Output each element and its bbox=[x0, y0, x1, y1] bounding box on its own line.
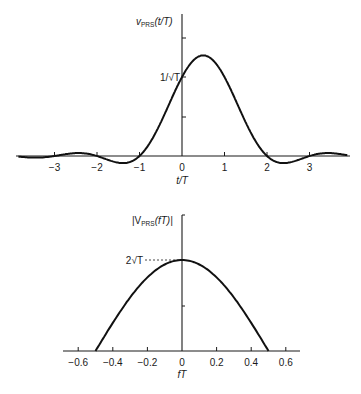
chart-figure: −3−2−10123 1/√T vPRS(t/T) t/T −0.6−0.4−0… bbox=[0, 0, 361, 394]
top-x-tick-label: −1 bbox=[134, 162, 146, 173]
top-x-tick-label: −2 bbox=[91, 162, 103, 173]
bottom-x-axis-label: fT bbox=[178, 369, 188, 380]
frequency-domain-chart: −0.6−0.4−0.200.20.40.6 2√T |VPRS(fT)| fT bbox=[63, 215, 300, 380]
top-x-tick-label: 3 bbox=[307, 162, 313, 173]
prs-pulse-curve bbox=[18, 55, 347, 163]
top-x-axis-label: t/T bbox=[176, 175, 189, 186]
bottom-x-tick-label: 0 bbox=[179, 357, 185, 368]
bottom-x-tick-label: 0.2 bbox=[210, 357, 224, 368]
top-x-tick-label: 0 bbox=[179, 162, 185, 173]
top-x-tick-label: −3 bbox=[49, 162, 61, 173]
top-x-ticks: −3−2−10123 bbox=[49, 152, 313, 173]
bottom-x-tick-label: 0.4 bbox=[244, 357, 258, 368]
bottom-y-axis-label: |VPRS(fT)| bbox=[132, 215, 173, 227]
top-y-axis-label: vPRS(t/T) bbox=[136, 16, 173, 28]
bottom-y-tick-label: 2√T bbox=[126, 255, 143, 266]
top-y-tick-label: 1/√T bbox=[160, 72, 180, 83]
bottom-x-tick-label: −0.6 bbox=[68, 357, 88, 368]
bottom-x-ticks: −0.6−0.4−0.200.20.40.6 bbox=[68, 347, 293, 368]
bottom-x-tick-label: −0.4 bbox=[103, 357, 123, 368]
bottom-x-tick-label: 0.6 bbox=[279, 357, 293, 368]
time-domain-chart: −3−2−10123 1/√T vPRS(t/T) t/T bbox=[16, 14, 350, 186]
bottom-x-tick-label: −0.2 bbox=[138, 357, 158, 368]
top-x-tick-label: 1 bbox=[222, 162, 228, 173]
top-x-tick-label: 2 bbox=[264, 162, 270, 173]
